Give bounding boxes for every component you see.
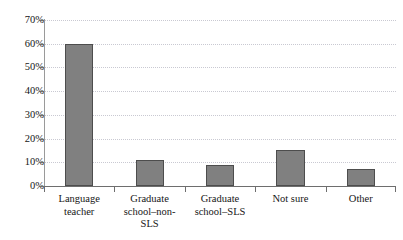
bar-slot <box>114 20 184 186</box>
bar <box>276 150 304 186</box>
x-axis-tick <box>326 186 327 192</box>
x-axis-ticks <box>44 186 396 192</box>
y-axis-label: 30% <box>4 110 44 121</box>
y-axis-label: 40% <box>4 86 44 97</box>
bar-slot <box>255 20 325 186</box>
bar <box>347 169 375 186</box>
y-axis-label: 20% <box>4 134 44 145</box>
bar-slot <box>326 20 396 186</box>
bar <box>206 165 234 186</box>
x-axis-category-label: Graduate school–SLS <box>185 193 255 231</box>
x-axis-category-label: Other <box>326 193 396 231</box>
y-axis-label: 10% <box>4 157 44 168</box>
bar-slot <box>185 20 255 186</box>
bar <box>136 160 164 186</box>
x-axis-labels: Language teacher Graduate school–non-SLS… <box>44 193 396 231</box>
y-axis-label: 60% <box>4 39 44 50</box>
x-axis-category-label: Not sure <box>255 193 325 231</box>
bar-chart: 70% 60% 50% 40% 30% 20% 10% 0% <box>0 0 403 240</box>
y-axis-label: 0% <box>4 181 44 192</box>
x-axis-tick <box>44 186 45 192</box>
x-axis-tick <box>185 186 186 192</box>
x-axis-tick <box>114 186 115 192</box>
bar <box>65 44 93 186</box>
bars-container <box>44 20 396 186</box>
x-axis-tick <box>255 186 256 192</box>
x-axis-tick <box>395 186 396 192</box>
y-axis: 70% 60% 50% 40% 30% 20% 10% 0% <box>0 0 44 240</box>
bar-slot <box>44 20 114 186</box>
x-axis-category-label: Language teacher <box>44 193 114 231</box>
y-axis-label: 50% <box>4 62 44 73</box>
y-axis-label: 70% <box>4 15 44 26</box>
x-axis-category-label: Graduate school–non-SLS <box>114 193 184 231</box>
